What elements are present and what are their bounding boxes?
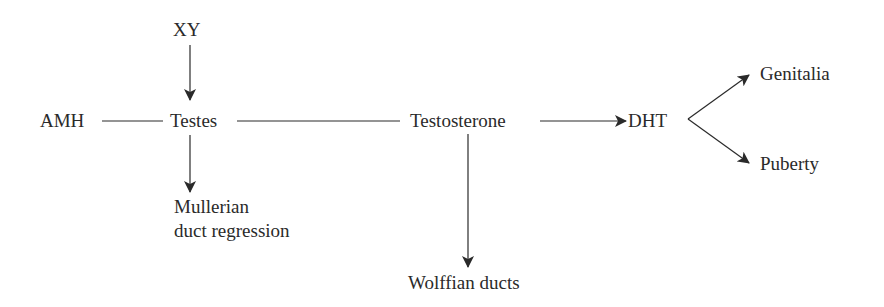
node-mullerian-line1: Mullerian xyxy=(174,196,249,218)
edge-dht-genitalia xyxy=(688,75,749,119)
node-testosterone: Testosterone xyxy=(410,110,506,132)
node-xy: XY xyxy=(173,19,200,41)
node-genitalia: Genitalia xyxy=(760,63,830,85)
node-dht: DHT xyxy=(628,110,667,132)
node-testes: Testes xyxy=(170,110,217,132)
node-mullerian-line2: duct regression xyxy=(174,220,290,242)
node-puberty: Puberty xyxy=(760,153,819,175)
node-wolffian: Wolffian ducts xyxy=(408,272,520,294)
node-amh: AMH xyxy=(40,110,84,132)
diagram-edges xyxy=(0,0,884,307)
edge-dht-puberty xyxy=(688,119,749,163)
